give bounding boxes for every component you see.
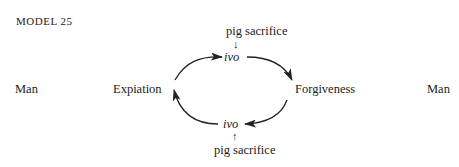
arrow-ivo-to-expiation [174,90,218,124]
arrow-expiation-to-ivo [175,57,222,80]
arrow-forgiveness-to-ivo [245,100,287,124]
cycle-arrows [0,0,459,167]
arrow-ivo-to-forgiveness [247,57,292,80]
